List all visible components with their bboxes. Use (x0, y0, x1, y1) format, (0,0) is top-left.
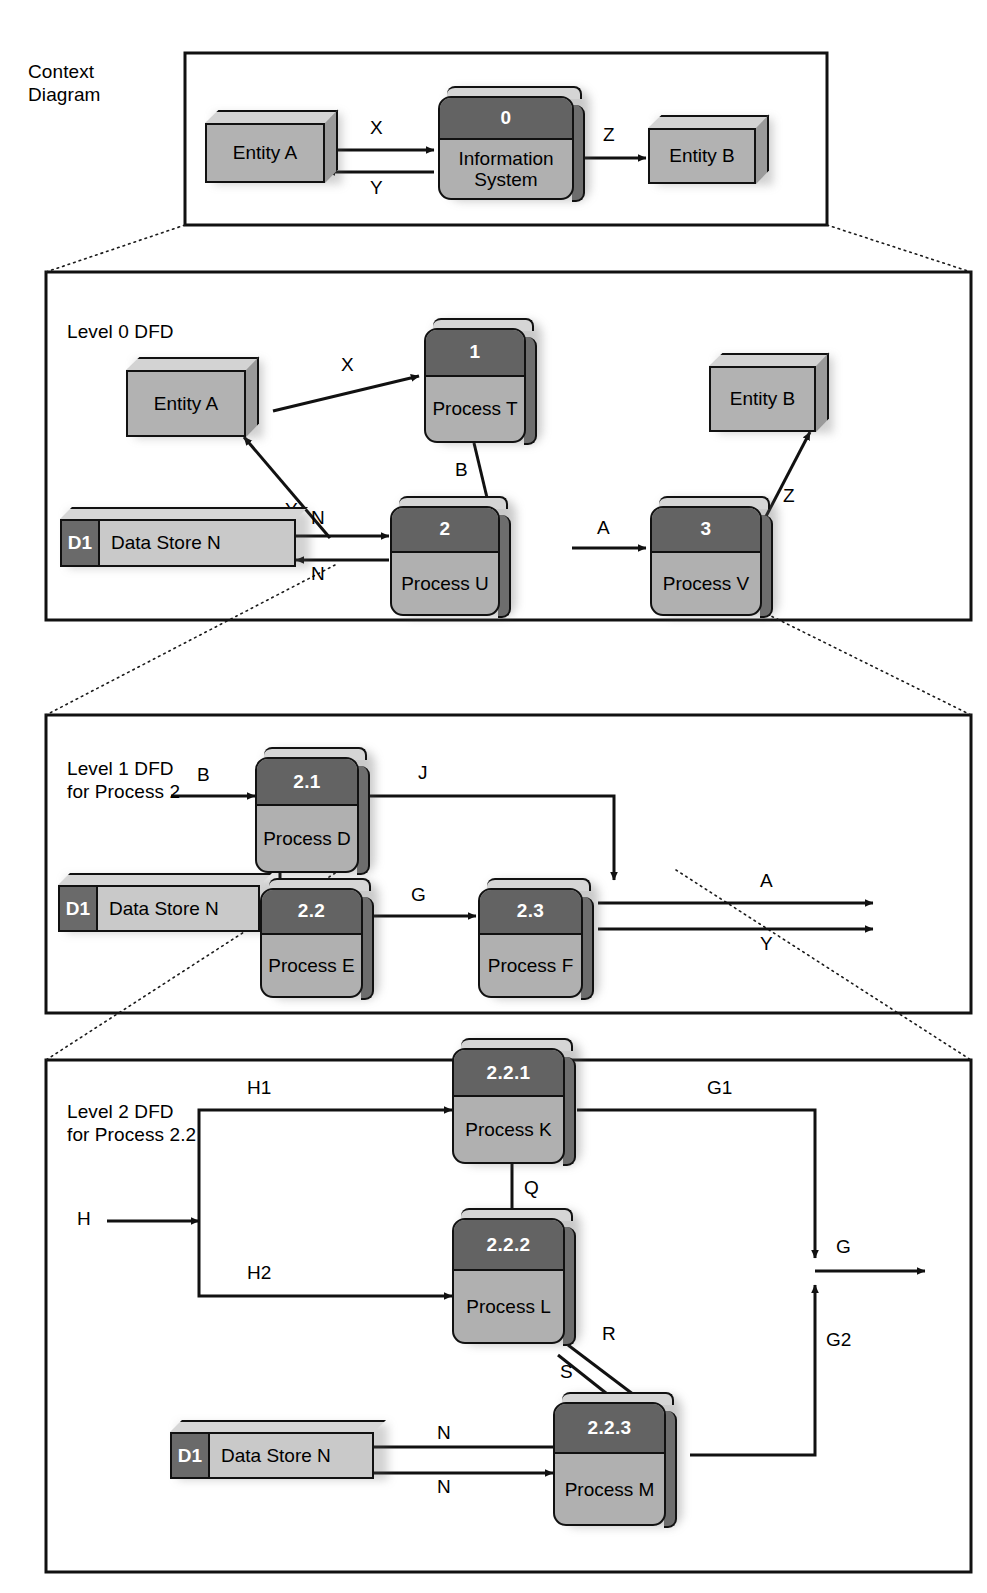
level0-process-2[interactable]: 2 Process U (390, 506, 500, 616)
panel-title-context: Context Diagram (28, 60, 101, 106)
level0-flow-label-n-in: N (311, 508, 325, 528)
process-name: Process V (652, 553, 760, 614)
store-name: Data Store N (98, 887, 258, 930)
level0-process-1[interactable]: 1 Process T (424, 328, 526, 443)
entity-right-face (246, 357, 259, 437)
level2-data-store-n[interactable]: D1 Data Store N (170, 1432, 374, 1479)
flow-g2-p223-right (690, 1285, 815, 1455)
level0-entity-b[interactable]: Entity B (709, 366, 816, 432)
process-header: 2.2.1 (454, 1050, 563, 1097)
leader-context-to-level0-right (827, 225, 971, 272)
flow-h1-to-p221 (199, 1110, 452, 1221)
entity-top-face (709, 353, 829, 366)
level1-flow-label-g: G (411, 885, 426, 905)
level0-flow-label-b: B (455, 460, 468, 480)
process-header: 2.1 (257, 759, 357, 806)
entity-top-face (205, 110, 338, 123)
context-flow-label-x: X (370, 118, 383, 138)
level0-flow-label-n-out: N (311, 564, 325, 584)
process-body: 2.3 Process F (478, 888, 583, 998)
level1-data-store-n[interactable]: D1 Data Store N (58, 885, 260, 932)
store-name: Data Store N (210, 1434, 372, 1477)
level2-flow-label-h: H (77, 1209, 91, 1229)
context-entity-b[interactable]: Entity B (648, 128, 756, 184)
process-number: 2.3 (517, 900, 544, 922)
process-body: 0 Information System (438, 96, 574, 200)
level0-entity-a[interactable]: Entity A (126, 370, 246, 437)
context-flow-label-y: Y (370, 178, 383, 198)
store-id: D1 (62, 521, 100, 565)
store-top-face (58, 873, 272, 885)
level1-process-22[interactable]: 2.2 Process E (260, 888, 363, 998)
process-number: 0 (501, 107, 512, 129)
level2-flow-label-n-out: N (437, 1477, 451, 1497)
process-name: Process L (454, 1271, 563, 1342)
leader-level0-to-level1-left (46, 565, 335, 715)
process-body: 2 Process U (390, 506, 500, 616)
level2-flow-label-h1: H1 (247, 1078, 271, 1098)
process-name: Process T (426, 377, 524, 441)
process-header: 2.3 (480, 890, 581, 935)
store-bar: D1 Data Store N (58, 885, 260, 932)
context-entity-a[interactable]: Entity A (205, 123, 325, 183)
process-header: 1 (426, 330, 524, 377)
process-body: 2.1 Process D (255, 757, 359, 873)
level2-flow-label-r: R (602, 1324, 616, 1344)
process-number: 2.1 (293, 771, 320, 793)
process-number: 2 (440, 518, 451, 540)
dfd-decomposition-page: Context Diagram Level 0 DFD Level 1 DFD … (0, 0, 987, 1593)
process-number: 3 (701, 518, 712, 540)
flow-g1-p221-right (577, 1110, 815, 1258)
entity-top-face (126, 357, 259, 370)
process-number: 2.2.2 (487, 1234, 531, 1256)
process-number: 1 (470, 341, 481, 363)
process-name: Process U (392, 553, 498, 614)
process-number: 2.2.3 (588, 1417, 632, 1439)
process-name: Process E (262, 935, 361, 996)
store-bar: D1 Data Store N (170, 1432, 374, 1479)
context-flow-label-z: Z (603, 125, 615, 145)
process-header: 0 (440, 98, 572, 140)
panel-title-level0: Level 0 DFD (67, 320, 174, 343)
level0-process-3[interactable]: 3 Process V (650, 506, 762, 616)
entity-label: Entity A (205, 123, 325, 183)
process-number: 2.2 (298, 900, 325, 922)
flow-j-p21-to-p23 (340, 796, 614, 880)
process-header: 2.2 (262, 890, 361, 935)
level1-flow-label-y: Y (760, 934, 773, 954)
context-process-information-system[interactable]: 0 Information System (438, 96, 574, 200)
process-header: 2 (392, 508, 498, 553)
level1-flow-label-b: B (197, 765, 210, 785)
level2-flow-label-h2: H2 (247, 1263, 271, 1283)
store-top-face (60, 507, 308, 519)
level2-flow-label-s: S (560, 1362, 573, 1382)
entity-label: Entity B (648, 128, 756, 184)
level2-process-223[interactable]: 2.2.3 Process M (553, 1402, 666, 1526)
process-body: 2.2.1 Process K (452, 1048, 565, 1164)
level1-process-21[interactable]: 2.1 Process D (255, 757, 359, 873)
level2-process-222[interactable]: 2.2.2 Process L (452, 1218, 565, 1344)
level1-flow-label-j: J (418, 763, 428, 783)
level0-flow-label-x: X (341, 355, 354, 375)
process-body: 2.2.3 Process M (553, 1402, 666, 1526)
store-id: D1 (172, 1434, 210, 1477)
level1-process-23[interactable]: 2.3 Process F (478, 888, 583, 998)
entity-top-face (648, 115, 769, 128)
flow-x-entitya-to-p1 (273, 376, 419, 411)
level2-flow-label-n-in: N (437, 1423, 451, 1443)
level0-flow-label-z: Z (783, 486, 795, 506)
panel-title-level1: Level 1 DFD for Process 2 (67, 757, 180, 803)
level2-process-221[interactable]: 2.2.1 Process K (452, 1048, 565, 1164)
process-name: Information System (440, 140, 572, 198)
process-number: 2.2.1 (487, 1062, 531, 1084)
level0-data-store-n[interactable]: D1 Data Store N (60, 519, 296, 567)
level2-flow-label-g2: G2 (826, 1330, 851, 1350)
process-name: Process K (454, 1097, 563, 1162)
process-header: 2.2.3 (555, 1404, 664, 1454)
process-body: 2.2.2 Process L (452, 1218, 565, 1344)
leader-context-to-level0-left (46, 225, 185, 272)
store-bar: D1 Data Store N (60, 519, 296, 567)
entity-right-face (816, 353, 829, 432)
level2-flow-label-g: G (836, 1237, 851, 1257)
leader-level2-right-leader (676, 870, 971, 1060)
